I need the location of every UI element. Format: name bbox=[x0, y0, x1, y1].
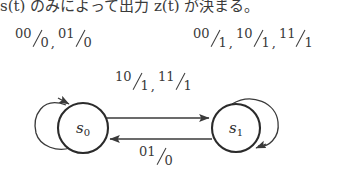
label-comma: , bbox=[151, 79, 155, 92]
fraction-term: 010 bbox=[138, 148, 176, 165]
transition-label-loop-s0: 000,010 bbox=[14, 30, 95, 47]
state-diagram-figure: s(t) のみによって出力 z(t) が決まる。 s0 s1 bbox=[0, 0, 341, 189]
fraction-term: 111 bbox=[157, 73, 195, 90]
label-comma: , bbox=[272, 36, 276, 49]
fraction-term: 101 bbox=[235, 30, 273, 47]
fraction-term: 000 bbox=[14, 30, 52, 47]
fraction-term: 010 bbox=[57, 30, 95, 47]
state-label-s1-subscript: 1 bbox=[237, 127, 243, 138]
fraction-term: 001 bbox=[192, 30, 230, 47]
state-label-s0-subscript: 0 bbox=[84, 127, 90, 138]
label-comma: , bbox=[229, 36, 233, 49]
transition-label-s0-to-s1: 101,111 bbox=[114, 73, 195, 90]
fraction-term: 101 bbox=[114, 73, 152, 90]
transition-label-s1-to-s0: 010 bbox=[138, 148, 176, 165]
label-comma: , bbox=[51, 36, 55, 49]
fraction-term: 111 bbox=[278, 30, 316, 47]
transition-label-loop-s1: 001,101,111 bbox=[192, 30, 316, 47]
